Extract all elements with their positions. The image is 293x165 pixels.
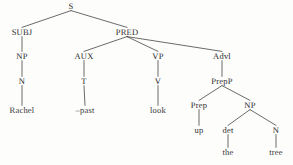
tree-node-up: up xyxy=(195,126,204,135)
tree-edge-s-to-subj xyxy=(22,11,71,28)
tree-node-the: the xyxy=(223,148,234,157)
tree-node-np1: NP xyxy=(16,52,27,61)
tree-node-prep: Prep xyxy=(191,101,207,110)
tree-edge-np2-to-det xyxy=(228,110,250,126)
tree-edge-pred-to-aux xyxy=(84,37,127,52)
tree-edge-prepp-to-prep xyxy=(199,86,222,101)
tree-node-np2: NP xyxy=(244,101,255,110)
tree-edge-prepp-to-np2 xyxy=(222,86,250,101)
tree-node-n2: N xyxy=(273,126,279,135)
tree-edge-pred-to-advl xyxy=(127,37,222,52)
tree-node-det: det xyxy=(223,126,234,135)
tree-edge-np2-to-n2 xyxy=(250,110,276,126)
tree-node-prepp: PrepP xyxy=(211,77,232,86)
tree-node-subj: SUBJ xyxy=(12,28,33,37)
syntax-tree-diagram: SSUBJPREDNPAUXVPAdvlNTVPrepPRachel–pastl… xyxy=(0,0,293,165)
tree-node-look: look xyxy=(150,106,166,115)
tree-node-s: S xyxy=(69,2,74,11)
tree-edges xyxy=(0,0,293,165)
tree-node-pred: PRED xyxy=(116,28,139,37)
tree-node-vp: VP xyxy=(152,52,163,61)
tree-edge-t-to-past xyxy=(84,86,85,106)
tree-node-t: T xyxy=(81,77,86,86)
tree-node-aux: AUX xyxy=(74,52,93,61)
tree-edge-s-to-pred xyxy=(71,11,127,28)
tree-node-advl: Advl xyxy=(213,52,231,61)
tree-node-rachel: Rachel xyxy=(10,106,35,115)
tree-node-v: V xyxy=(155,77,161,86)
tree-node-tree: tree xyxy=(269,148,283,157)
tree-node-past: –past xyxy=(76,106,95,115)
tree-node-n1: N xyxy=(19,77,25,86)
